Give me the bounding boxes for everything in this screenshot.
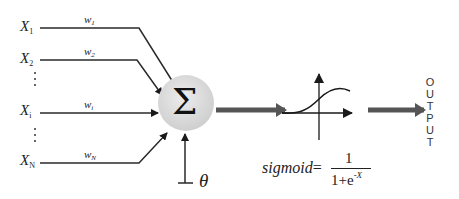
vertical-ellipsis-2 [34, 128, 37, 146]
input-edge-x2 [40, 60, 162, 95]
sigmoid-curve [282, 88, 350, 113]
vertical-ellipsis-1 [34, 72, 37, 90]
weight-label-w2: w2 [84, 45, 95, 59]
input-label-xn: XN [20, 152, 35, 170]
input-edge-x1 [40, 28, 176, 87]
diagram-graphics [0, 0, 459, 199]
input-label-x1: X1 [20, 18, 33, 36]
sigmoid-denominator: 1+e-X [331, 170, 362, 189]
sigmoid-numerator: 1 [345, 150, 353, 167]
weight-label-wi: wi [84, 98, 93, 112]
input-edge-xn [40, 133, 167, 163]
input-label-x2: X2 [20, 50, 33, 68]
sigmoid-formula-lhs: sigmoid= [262, 159, 322, 177]
summation-symbol: Σ [172, 84, 197, 120]
perceptron-diagram: X1 X2 Xi XN w1 w2 wi wN Σ θ sigmoid= 1 1… [0, 0, 459, 199]
bias-label-theta: θ [199, 170, 208, 192]
fraction-bar [331, 168, 371, 169]
input-label-xi: Xi [20, 102, 31, 120]
weight-label-w1: w1 [84, 13, 95, 27]
output-label: O U T P U T [424, 76, 436, 148]
weight-label-wn: wN [84, 148, 96, 162]
